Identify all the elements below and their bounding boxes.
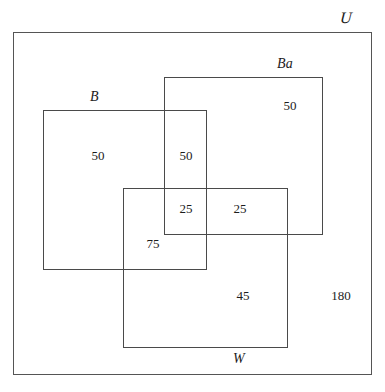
region-value-ba-only: 50: [284, 99, 297, 112]
region-value-b-only: 50: [92, 149, 105, 162]
region-value-b-w: 75: [147, 237, 160, 250]
set-b-label: B: [90, 90, 99, 104]
set-w-label: W: [233, 352, 245, 366]
venn-diagram: U B Ba W 50 50 50 25 25 75 45 180: [0, 0, 385, 392]
universal-set-label-text: U: [339, 10, 352, 26]
region-value-b-ba-w: 25: [180, 202, 193, 215]
region-value-b-ba: 50: [180, 149, 193, 162]
universal-set-label: U: [340, 10, 352, 26]
set-ba-label: Ba: [277, 57, 293, 71]
set-w-rectangle: [123, 188, 288, 348]
region-value-outside: 180: [331, 289, 351, 302]
region-value-ba-w: 25: [234, 202, 247, 215]
region-value-w-only: 45: [237, 289, 250, 302]
